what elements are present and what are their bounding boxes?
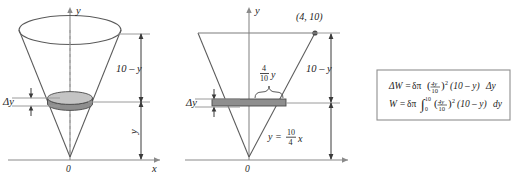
eq2-frac-numerator: 4y [438,98,444,105]
line-equation-numerator: 10 [287,128,295,137]
eq2-frac-denominator: 10 [439,105,446,112]
radius-brace [255,86,283,98]
delta-y-label-panel2: Δy [185,97,197,108]
equation-box: ΔW = δπ ( 4y 10 ) 2 (10 – y) Δy W = δπ ∫… [377,70,510,120]
eq2-lhs: W = [389,99,406,109]
equation-box-border [377,70,510,120]
line-equation-lhs: y = [267,131,282,142]
x-axis-panel1 [8,157,160,162]
eq1-delta-pi: δπ [412,81,421,91]
origin-label-panel1: 0 [66,164,71,174]
dimension-lower-panel2 [329,102,334,160]
radius-fraction-label: 4 10 y [255,64,283,98]
x-axis-panel2 [185,157,348,162]
dimension-y-panel1 [139,101,144,160]
eq2-delta-pi: δπ [407,99,416,109]
origin-label-panel2: 0 [245,164,250,174]
eq2-integral-upper: 10 [425,96,431,102]
eq1-differential: Δy [485,81,497,91]
delta-y-arrows-panel1 [29,88,34,116]
label-y-panel1: y [128,129,139,135]
radius-denominator: 10 [260,74,268,83]
label-10-minus-y-panel2: 10 – y [306,63,332,74]
line-equation-denominator: 4 [289,138,293,147]
radius-variable: y [270,69,276,80]
work-pumping-cone-figure: Δy 10 – y y y x 0 [0,0,516,178]
panel-cone-cross-section: (4, 10) Δy 4 10 y y [185,5,348,174]
eq1-frac-denominator: 10 [432,87,439,94]
y-axis-label-panel2: y [254,5,260,16]
delta-y-label-panel1: Δy [2,96,14,107]
eq1-lhs: ΔW = [388,81,411,91]
line-equation-label: y = 10 4 x [267,128,303,147]
eq2-exponent: 2 [452,98,455,104]
eq1-exponent: 2 [445,80,448,86]
point-4-10-label: (4, 10) [296,11,323,23]
eq2-differential: dy [493,99,503,109]
radius-numerator: 4 [262,64,266,73]
label-10-minus-y-panel1: 10 – y [116,63,142,74]
eq2-integral-lower: 0 [425,106,428,112]
y-axis-label-panel1: y [75,5,81,16]
y-axis-panel1 [67,7,72,160]
line-equation-variable: x [297,133,303,144]
representative-slab-rect [212,99,286,106]
eq1-factor: (10 – y) [450,81,480,92]
x-axis-label-panel1: x [151,163,157,174]
eq2-factor: (10 – y) [457,99,487,110]
representative-slab-disk [48,92,93,111]
y-axis-panel2 [246,7,251,160]
panel-cone-3d: Δy 10 – y y y x 0 [2,5,160,174]
eq1-frac-numerator: 4y [431,80,437,87]
